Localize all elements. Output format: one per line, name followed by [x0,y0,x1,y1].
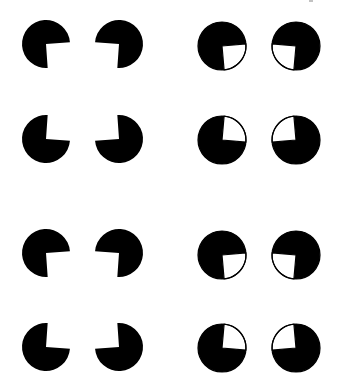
panel-left-upper [22,20,143,163]
wedge-circle-top-left [272,324,320,372]
wedge-circle-bottom-left [272,231,320,279]
pacman-inducer-top-right [22,323,70,371]
kanizsa-figure [0,0,338,387]
pacman-inducer-top-left [95,115,143,163]
pacman-inducer-bottom-right [22,229,70,277]
panel-right-lower [198,231,320,372]
wedge-circle-bottom-right [198,231,246,279]
pacman-inducer-bottom-left [95,229,143,277]
wedge-circle-bottom-right [198,22,246,70]
panel-left-lower [22,229,143,371]
wedge-circle-bottom-left [272,22,320,70]
pacman-inducer-top-left [95,323,143,371]
pacman-inducer-top-right [22,115,70,163]
wedge-circle-top-right [198,324,246,372]
wedge-circle-top-left [272,116,320,164]
panel-right-upper [198,22,320,164]
wedge-circle-top-right [198,116,246,164]
pacman-inducer-bottom-right [22,20,70,68]
pacman-inducer-bottom-left [95,20,143,68]
